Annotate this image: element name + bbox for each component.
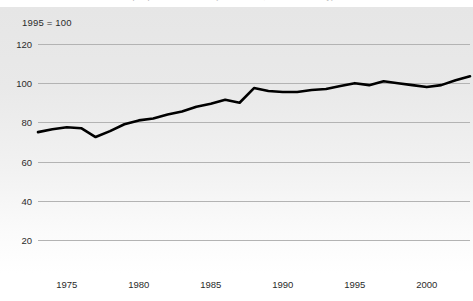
series-line-index	[38, 76, 470, 137]
x-axis: 197519801985199019952000	[0, 273, 473, 301]
x-tick-label-1980: 1980	[128, 279, 149, 290]
series-line-chart	[38, 44, 470, 279]
chart-title-text: Output per hour worked (1995 = 100, whol…	[118, 0, 334, 1]
x-tick-label-1975: 1975	[56, 279, 77, 290]
x-tick-label-1985: 1985	[200, 279, 221, 290]
index-base-note: 1995 = 100	[22, 17, 72, 28]
y-tick-label-60: 60	[2, 156, 32, 167]
chart-title-clipped: Output per hour worked (1995 = 100, whol…	[0, 0, 473, 7]
y-tick-label-40: 40	[2, 195, 32, 206]
x-tick-label-1995: 1995	[344, 279, 365, 290]
plot-panel: 1995 = 100 020406080100120	[0, 7, 473, 273]
y-tick-label-100: 100	[2, 78, 32, 89]
x-tick-label-2000: 2000	[416, 279, 437, 290]
plot-area: 020406080100120	[38, 44, 470, 279]
y-tick-label-20: 20	[2, 234, 32, 245]
chart-figure: Output per hour worked (1995 = 100, whol…	[0, 0, 473, 301]
x-tick-label-1990: 1990	[272, 279, 293, 290]
y-tick-label-120: 120	[2, 39, 32, 50]
y-tick-label-80: 80	[2, 117, 32, 128]
